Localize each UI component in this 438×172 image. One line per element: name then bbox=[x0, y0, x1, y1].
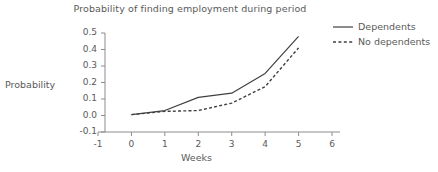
x-tick-label: 0 bbox=[121, 139, 141, 149]
legend-dashed-line-icon bbox=[333, 37, 353, 47]
legend-label-no-dependents: No dependents bbox=[358, 36, 430, 47]
x-tick-label: 6 bbox=[322, 139, 342, 149]
legend-label-dependents: Dependents bbox=[358, 21, 416, 32]
x-tick-label: 4 bbox=[255, 139, 275, 149]
y-tick-label: -0.1 bbox=[67, 126, 97, 136]
x-axis-ticks bbox=[98, 132, 332, 136]
y-tick-label: 0.5 bbox=[67, 27, 97, 37]
y-tick-label: 0.4 bbox=[67, 44, 97, 54]
series-line-dependents bbox=[131, 36, 298, 114]
series-line-no-dependents bbox=[131, 48, 298, 115]
x-tick-label: 3 bbox=[222, 139, 242, 149]
chart-container: Probability of finding employment during… bbox=[0, 0, 438, 172]
legend-solid-line-icon bbox=[333, 22, 353, 32]
axes bbox=[98, 33, 340, 136]
y-tick-label: 0.2 bbox=[67, 77, 97, 87]
legend-item-no-dependents[interactable]: No dependents bbox=[333, 34, 430, 49]
y-tick-label: 0.0 bbox=[67, 110, 97, 120]
y-tick-label: 0.3 bbox=[67, 60, 97, 70]
x-tick-label: 5 bbox=[289, 139, 309, 149]
chart-legend: Dependents No dependents bbox=[333, 19, 430, 49]
y-axis-ticks bbox=[101, 33, 105, 132]
legend-item-dependents[interactable]: Dependents bbox=[333, 19, 430, 34]
data-series-group bbox=[131, 36, 298, 114]
y-tick-label: 0.1 bbox=[67, 93, 97, 103]
x-tick-label: -1 bbox=[88, 139, 108, 149]
x-tick-label: 2 bbox=[188, 139, 208, 149]
x-tick-label: 1 bbox=[155, 139, 175, 149]
